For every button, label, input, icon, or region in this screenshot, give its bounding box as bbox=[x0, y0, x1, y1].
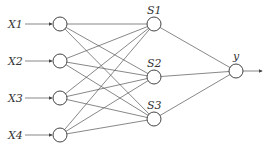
label-x1: X1 bbox=[7, 18, 23, 31]
label-y: y bbox=[232, 50, 240, 63]
edge bbox=[60, 77, 154, 135]
label-s2: S2 bbox=[147, 57, 162, 70]
node-x4 bbox=[53, 128, 67, 142]
label-x4: X4 bbox=[7, 129, 23, 142]
node-s1 bbox=[147, 17, 161, 31]
node-x3 bbox=[53, 91, 67, 105]
edge bbox=[60, 24, 154, 119]
label-s1: S1 bbox=[147, 4, 162, 17]
node-x2 bbox=[53, 54, 67, 68]
edge bbox=[60, 77, 154, 98]
label-x3: X3 bbox=[7, 92, 23, 105]
edge bbox=[60, 98, 154, 119]
node-s2 bbox=[147, 70, 161, 84]
label-x2: X2 bbox=[7, 55, 23, 68]
edge bbox=[60, 24, 154, 98]
edge bbox=[154, 71, 236, 77]
node-y bbox=[229, 64, 243, 78]
edge bbox=[60, 61, 154, 119]
node-x1 bbox=[53, 17, 67, 31]
edge bbox=[60, 24, 154, 61]
edge bbox=[154, 24, 236, 71]
node-s3 bbox=[147, 112, 161, 126]
edge bbox=[60, 24, 154, 135]
edge bbox=[154, 71, 236, 119]
edge bbox=[60, 119, 154, 135]
label-s3: S3 bbox=[147, 99, 162, 112]
neural-network-diagram: X1 X2 X3 X4 S1 S2 S3 y bbox=[0, 0, 266, 151]
